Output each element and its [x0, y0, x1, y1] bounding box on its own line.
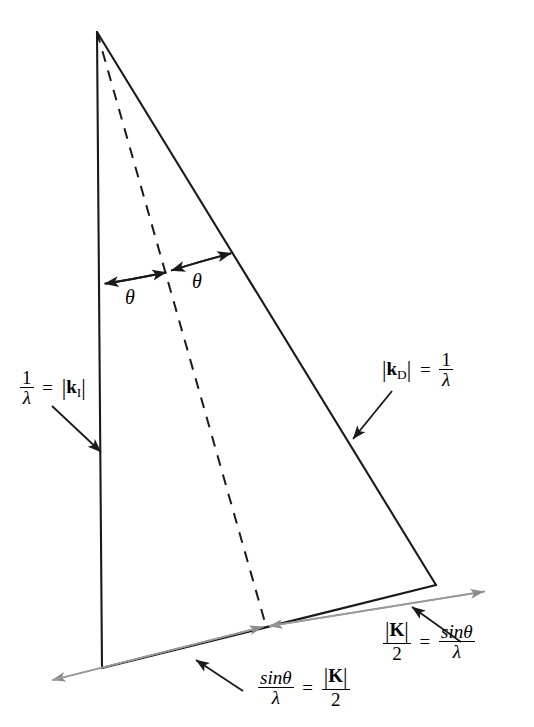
- scattering-vector-label-right: |K| 2 = sinθ λ: [383, 620, 475, 663]
- fraction-denominator: 2: [383, 644, 411, 663]
- figure-canvas: θ θ 1 λ = |kI| |kD| = 1 λ |K| 2 = sinθ: [0, 0, 534, 727]
- K-over-two-fraction: |K| 2: [322, 666, 350, 709]
- equals-sign: =: [38, 377, 57, 399]
- pointer-to-incident-line: [52, 406, 101, 452]
- angle-theta-left: θ: [125, 286, 135, 309]
- fraction-numerator: 1: [439, 350, 453, 370]
- vector-k-symbol: k: [387, 358, 398, 379]
- incident-beam-line: [97, 32, 102, 668]
- diffracted-wavevector-label: |kD| = 1 λ: [382, 350, 453, 390]
- sin-theta-over-lambda-fraction: sinθ λ: [258, 668, 294, 708]
- equals-sign: =: [298, 677, 317, 699]
- abs-bar-right: |: [407, 359, 412, 381]
- vector-diagram-svg: [0, 0, 534, 727]
- pointer-to-bottom-measure: [196, 660, 243, 691]
- theta-arc-right: [171, 253, 231, 270]
- incident-wavevector-label: 1 λ = |kI|: [20, 368, 86, 408]
- angle-bisector-dashed-line: [97, 32, 266, 626]
- vector-K-symbol: K: [390, 619, 405, 640]
- fraction-denominator: λ: [439, 370, 453, 389]
- subscript-diffracted: D: [397, 366, 407, 381]
- magnitude-k-diffracted: |kD|: [382, 358, 411, 383]
- angle-theta-left-text: θ: [125, 286, 135, 308]
- abs-bar-right: |: [404, 620, 409, 642]
- fraction-numerator: 1: [20, 368, 34, 388]
- K-half-arrow-left: [52, 627, 264, 681]
- vector-K-symbol: K: [328, 665, 343, 686]
- fraction-numerator: sinθ: [439, 622, 475, 642]
- abs-bar-right: |: [81, 377, 86, 399]
- diffracted-beam-line: [97, 32, 436, 585]
- angle-theta-right: θ: [192, 270, 202, 293]
- fraction-denominator: λ: [439, 642, 475, 661]
- sin-theta-over-lambda-fraction: sinθ λ: [439, 622, 475, 662]
- magnitude-k-incident: |kI|: [62, 376, 86, 401]
- equals-sign: =: [416, 631, 435, 653]
- theta-arc-left: [105, 272, 167, 284]
- one-over-lambda-fraction: 1 λ: [20, 368, 34, 408]
- vector-k-symbol: k: [66, 376, 77, 397]
- angle-theta-right-text: θ: [192, 270, 202, 292]
- abs-bar-right: |: [343, 666, 348, 688]
- one-over-lambda-fraction: 1 λ: [439, 350, 453, 390]
- fraction-denominator: λ: [20, 388, 34, 407]
- pointer-to-diffracted-line: [353, 391, 392, 439]
- fraction-numerator: sinθ: [258, 668, 294, 688]
- K-over-two-fraction: |K| 2: [383, 620, 411, 663]
- fraction-numerator: |K|: [383, 620, 411, 644]
- scattering-vector-label-bottom: sinθ λ = |K| 2: [258, 666, 350, 709]
- fraction-denominator: 2: [322, 690, 350, 709]
- fraction-denominator: λ: [258, 688, 294, 707]
- equals-sign: =: [416, 359, 435, 381]
- fraction-numerator: |K|: [322, 666, 350, 690]
